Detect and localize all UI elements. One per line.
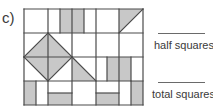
shaded-rectangle: [131, 81, 143, 105]
shaded-rectangle: [96, 93, 119, 105]
total-squares-label: total squares: [152, 88, 213, 101]
shaded-rectangle: [72, 9, 84, 33]
half-squares-answer-blank[interactable]: [158, 33, 205, 34]
shaded-rectangle: [119, 57, 131, 81]
shaded-rectangle: [24, 81, 36, 105]
shaded-rectangle: [48, 93, 72, 105]
shaded-rectangle: [107, 57, 119, 81]
total-squares-answer-blank[interactable]: [158, 82, 205, 83]
half-squares-label: half squares: [154, 39, 213, 52]
shaded-rectangle: [60, 9, 72, 33]
